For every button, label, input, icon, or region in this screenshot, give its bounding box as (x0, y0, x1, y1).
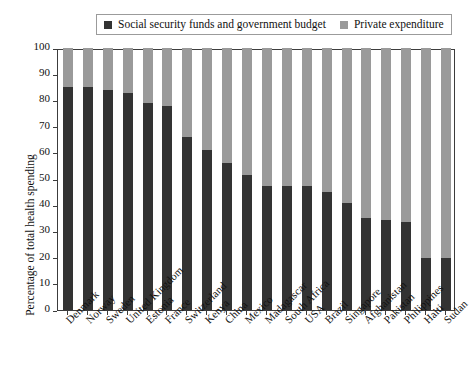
bar-segment-private (103, 48, 113, 90)
y-axis: Percentage of total health spending 0102… (0, 49, 57, 311)
bar-group (103, 48, 113, 310)
bar-group (222, 48, 232, 310)
bar-group (202, 48, 212, 310)
y-tick-label: 40 (39, 198, 50, 209)
x-axis: DenmarkNorwaySwedenUnited KingdomEstonia… (57, 311, 455, 391)
y-tick-label: 100 (34, 41, 51, 52)
bar-group (401, 48, 411, 310)
y-tick-label: 10 (39, 277, 50, 288)
bar-segment-private (123, 48, 133, 93)
bar-group (123, 48, 133, 310)
bar-group (262, 48, 272, 310)
chart-legend: Social security funds and government bud… (96, 14, 452, 35)
legend-swatch-private-icon (340, 21, 348, 29)
y-tick-label: 70 (39, 120, 50, 131)
bar-segment-private (202, 48, 212, 150)
bar-segment-private (162, 48, 172, 106)
legend-swatch-government-icon (104, 21, 112, 29)
bar-segment-government (143, 103, 153, 310)
bar-group (302, 48, 312, 310)
bar-segment-government (262, 186, 272, 310)
bar-segment-government (441, 258, 451, 310)
bar-group (242, 48, 252, 310)
y-axis-title: Percentage of total health spending (24, 110, 36, 360)
y-tick-label: 0 (45, 303, 51, 314)
y-tick-label: 30 (39, 224, 50, 235)
bar-segment-private (83, 48, 93, 87)
bar-segment-private (143, 48, 153, 103)
bar-group (322, 48, 332, 310)
bar-segment-private (182, 48, 192, 137)
bar-segment-government (123, 93, 133, 310)
bar-segment-government (103, 90, 113, 310)
legend-label-private: Private expenditure (354, 19, 444, 31)
y-tick-label: 20 (39, 251, 50, 262)
bar-segment-private (441, 48, 451, 258)
y-tick-label: 60 (39, 146, 50, 157)
bar-segment-private (282, 48, 292, 186)
bars-layer (58, 50, 454, 310)
bar-segment-private (242, 48, 252, 175)
bar-segment-private (322, 48, 332, 192)
plot-area (57, 49, 455, 311)
bar-segment-government (182, 137, 192, 310)
bar-segment-government (242, 175, 252, 310)
bar-group (441, 48, 451, 310)
bar-segment-private (63, 48, 73, 87)
bar-segment-private (381, 48, 391, 220)
bar-group (63, 48, 73, 310)
bar-group (421, 48, 431, 310)
bar-group (83, 48, 93, 310)
bar-segment-private (421, 48, 431, 258)
bar-segment-private (262, 48, 272, 186)
bar-segment-government (342, 203, 352, 310)
bar-segment-private (342, 48, 352, 203)
y-tick-label: 50 (39, 172, 50, 183)
bar-group (381, 48, 391, 310)
bar-segment-private (401, 48, 411, 222)
bar-segment-government (202, 150, 212, 310)
y-tick-label: 80 (39, 93, 50, 104)
bar-group (282, 48, 292, 310)
stacked-bar-chart: Social security funds and government bud… (0, 0, 476, 391)
bar-segment-private (302, 48, 312, 186)
legend-entry-private: Private expenditure (340, 19, 444, 31)
bar-segment-government (83, 87, 93, 310)
legend-label-government: Social security funds and government bud… (118, 19, 326, 31)
bar-group (342, 48, 352, 310)
bar-segment-private (222, 48, 232, 163)
bar-segment-government (63, 87, 73, 310)
legend-entry-government: Social security funds and government bud… (104, 19, 326, 31)
bar-segment-private (361, 48, 371, 218)
bar-group (143, 48, 153, 310)
bar-group (361, 48, 371, 310)
y-tick-label: 90 (39, 67, 50, 78)
